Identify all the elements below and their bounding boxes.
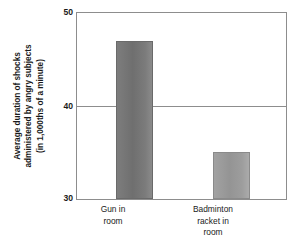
x-category-label-gun-in-room: Gun in room (84, 204, 142, 227)
x-category-label-badminton-racket-in-room-line-1: Badminton (182, 204, 244, 216)
gridline-40 (77, 106, 286, 107)
x-category-label-gun-in-room-line-1: Gun in (84, 204, 142, 216)
bar-chart-figure: Average duration of shocks administered … (0, 0, 301, 246)
x-category-label-badminton-racket-in-room-line-2: racket in (182, 216, 244, 228)
bar-gun-in-room[interactable] (116, 41, 153, 199)
x-category-label-gun-in-room-line-2: room (84, 216, 142, 228)
y-tick-label-30: 30 (33, 194, 73, 203)
x-category-label-badminton-racket-in-room: Badminton racket in room (182, 204, 244, 239)
x-category-label-badminton-racket-in-room-line-3: room (182, 227, 244, 239)
y-tick-label-50: 50 (33, 8, 73, 17)
plot-area (76, 12, 287, 200)
y-axis-title-line-1: Average duration of shocks (12, 45, 23, 168)
bar-badminton-racket-in-room[interactable] (213, 152, 250, 199)
y-tick-label-40: 40 (33, 102, 73, 111)
